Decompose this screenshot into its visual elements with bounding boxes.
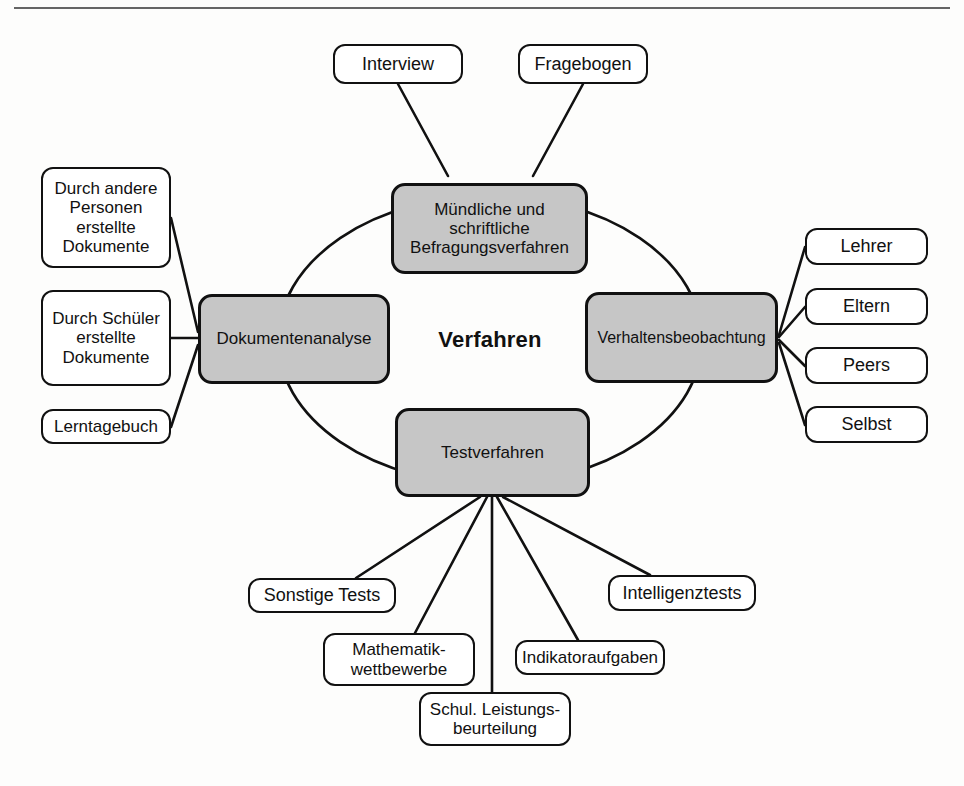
node-durch-schueler[interactable]: Durch Schüler erstellte Dokumente [41, 290, 171, 386]
edge-interview [398, 84, 448, 176]
node-eltern[interactable]: Eltern [805, 288, 928, 325]
node-indikatoraufgaben[interactable]: Indikatoraufgaben [515, 640, 665, 675]
edge-sonstige-tests [356, 497, 480, 578]
diagram-canvas: Interview Fragebogen Mündliche und schri… [0, 0, 964, 786]
node-testverfahren[interactable]: Testverfahren [395, 408, 590, 497]
center-label-verfahren: Verfahren [430, 327, 550, 353]
node-fragebogen[interactable]: Fragebogen [518, 44, 648, 84]
node-lerntagebuch[interactable]: Lerntagebuch [41, 409, 171, 444]
node-peers[interactable]: Peers [805, 347, 928, 384]
edge-durch-andere-personen [171, 218, 198, 332]
node-interview[interactable]: Interview [333, 44, 463, 84]
node-befragungsverfahren-label: Mündliche und schriftliche Befragungsver… [410, 200, 569, 257]
node-interview-label: Interview [362, 54, 434, 74]
node-schul-leistungsbeurteilung-label: Schul. Leistungs- beurteilung [430, 700, 560, 738]
node-lerntagebuch-label: Lerntagebuch [54, 417, 158, 436]
node-sonstige-tests-label: Sonstige Tests [264, 585, 381, 605]
node-befragungsverfahren[interactable]: Mündliche und schriftliche Befragungsver… [391, 183, 588, 274]
node-intelligenztests-label: Intelligenztests [622, 583, 741, 603]
node-peers-label: Peers [843, 355, 890, 375]
node-fragebogen-label: Fragebogen [534, 54, 631, 74]
node-selbst-label: Selbst [841, 414, 891, 434]
node-dokumentenanalyse-label: Dokumentenanalyse [217, 329, 372, 348]
node-lehrer[interactable]: Lehrer [805, 228, 928, 265]
node-selbst[interactable]: Selbst [805, 406, 928, 443]
node-eltern-label: Eltern [843, 296, 890, 316]
node-schul-leistungsbeurteilung[interactable]: Schul. Leistungs- beurteilung [419, 692, 571, 746]
node-durch-andere-personen[interactable]: Durch andere Personen erstellte Dokument… [41, 167, 171, 268]
edge-selbst [779, 343, 805, 425]
edge-indikatoraufgaben [497, 497, 578, 640]
node-intelligenztests[interactable]: Intelligenztests [608, 575, 756, 611]
edge-layer [0, 0, 964, 786]
node-verhaltensbeobachtung[interactable]: Verhaltensbeobachtung [585, 292, 778, 383]
node-dokumentenanalyse[interactable]: Dokumentenanalyse [198, 294, 390, 384]
edge-intelligenztests [503, 497, 650, 575]
node-lehrer-label: Lehrer [840, 236, 892, 256]
node-testverfahren-label: Testverfahren [441, 443, 544, 462]
node-mathematikwettbewerbe[interactable]: Mathematik- wettbewerbe [323, 633, 475, 686]
center-label-text: Verfahren [438, 327, 541, 352]
node-mathematikwettbewerbe-label: Mathematik- wettbewerbe [351, 640, 447, 678]
node-durch-andere-personen-label: Durch andere Personen erstellte Dokument… [54, 179, 157, 255]
node-durch-schueler-label: Durch Schüler erstellte Dokumente [52, 309, 160, 366]
node-sonstige-tests[interactable]: Sonstige Tests [248, 578, 396, 613]
edge-fragebogen [533, 84, 583, 176]
edge-lerntagebuch [171, 345, 198, 427]
node-verhaltensbeobachtung-label: Verhaltensbeobachtung [597, 329, 765, 347]
node-indikatoraufgaben-label: Indikatoraufgaben [522, 648, 658, 667]
